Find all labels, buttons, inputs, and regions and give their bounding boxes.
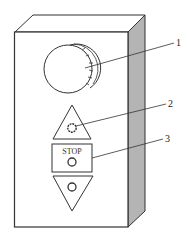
- down-button-indicator: [68, 183, 76, 191]
- stop-button[interactable]: STOP: [52, 144, 92, 172]
- pendant-diagram: STOP 1 2 3: [0, 0, 187, 240]
- enclosure-top-face: [15, 15, 145, 32]
- stop-label: STOP: [62, 147, 82, 156]
- label-1: 1: [176, 37, 181, 48]
- label-2: 2: [168, 98, 173, 109]
- label-3: 3: [165, 133, 170, 144]
- enclosure-side-face: [128, 15, 145, 227]
- knob-face: [44, 45, 92, 93]
- up-button-indicator: [68, 124, 76, 132]
- stop-button-indicator: [68, 158, 76, 166]
